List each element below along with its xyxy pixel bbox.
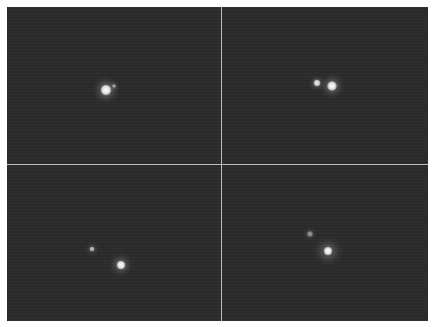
panel-bottom-left [7,165,221,321]
horizontal-divider [7,164,428,165]
star-bottom-right-0 [307,231,313,237]
panel-bottom-right [222,165,428,321]
star-top-right-1 [327,81,337,91]
star-top-left-1 [112,84,116,88]
star-bottom-right-1 [324,247,333,256]
star-top-left-0 [101,85,112,96]
star-bottom-left-1 [117,261,126,270]
image-description: 2x2 grid of dark astronomical frames sho… [0,0,1,1]
star-bottom-left-0 [90,247,95,252]
panel-top-right [222,7,428,164]
star-top-right-0 [314,80,321,87]
